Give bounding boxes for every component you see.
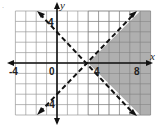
arrow-downleft-icon	[37, 107, 45, 115]
y-axis-arrow-down-icon	[54, 118, 60, 125]
y-tick-neg4: -4	[46, 99, 55, 110]
y-tick-4: 4	[48, 17, 54, 28]
stray-mark: ·	[2, 4, 4, 10]
y-axis-label: y	[59, 0, 65, 11]
x-axis-label: x	[149, 50, 155, 62]
x-tick-0: 0	[49, 66, 55, 77]
x-tick-8: 8	[134, 66, 140, 77]
inequality-graph: y x -4 0 4 8 4 -4 ·	[0, 0, 159, 126]
x-tick-neg4: -4	[9, 66, 18, 77]
x-tick-4: 4	[94, 66, 100, 77]
